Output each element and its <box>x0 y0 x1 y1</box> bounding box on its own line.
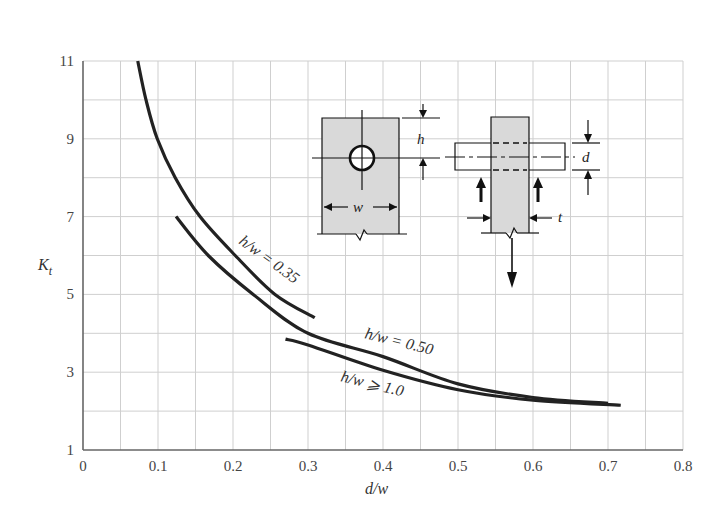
x-tick-labels: 00.10.20.30.40.50.60.70.8 <box>79 458 692 474</box>
d-dimension-label: d <box>582 149 590 165</box>
x-tick-label: 0.5 <box>449 458 468 474</box>
y-tick-label: 7 <box>67 209 75 225</box>
x-tick-label: 0.8 <box>674 458 693 474</box>
y-axis-label-sub: t <box>49 264 53 278</box>
y-tick-label: 3 <box>67 364 75 380</box>
x-tick-label: 0.7 <box>599 458 618 474</box>
y-tick-label: 5 <box>67 286 75 302</box>
inset-lug-diagram: d t <box>445 117 600 288</box>
x-tick-label: 0 <box>79 458 87 474</box>
x-tick-label: 0.1 <box>149 458 168 474</box>
stress-concentration-chart: 00.10.20.30.40.50.60.70.8 1357911 d/w Kt… <box>0 0 716 521</box>
y-axis-label: Kt <box>37 256 53 278</box>
x-axis-label: d/w <box>365 480 388 497</box>
curve-label-h-w-0-35: h/w = 0.35 <box>236 232 303 287</box>
x-tick-label: 0.6 <box>524 458 543 474</box>
w-dimension-label: w <box>353 199 363 215</box>
y-tick-label: 11 <box>60 53 74 69</box>
y-tick-label: 9 <box>67 131 75 147</box>
x-tick-label: 0.3 <box>299 458 318 474</box>
y-tick-label: 1 <box>67 442 75 458</box>
x-tick-label: 0.2 <box>224 458 243 474</box>
x-tick-label: 0.4 <box>374 458 393 474</box>
h-dimension-label: h <box>417 131 425 147</box>
y-tick-labels: 1357911 <box>60 53 75 458</box>
